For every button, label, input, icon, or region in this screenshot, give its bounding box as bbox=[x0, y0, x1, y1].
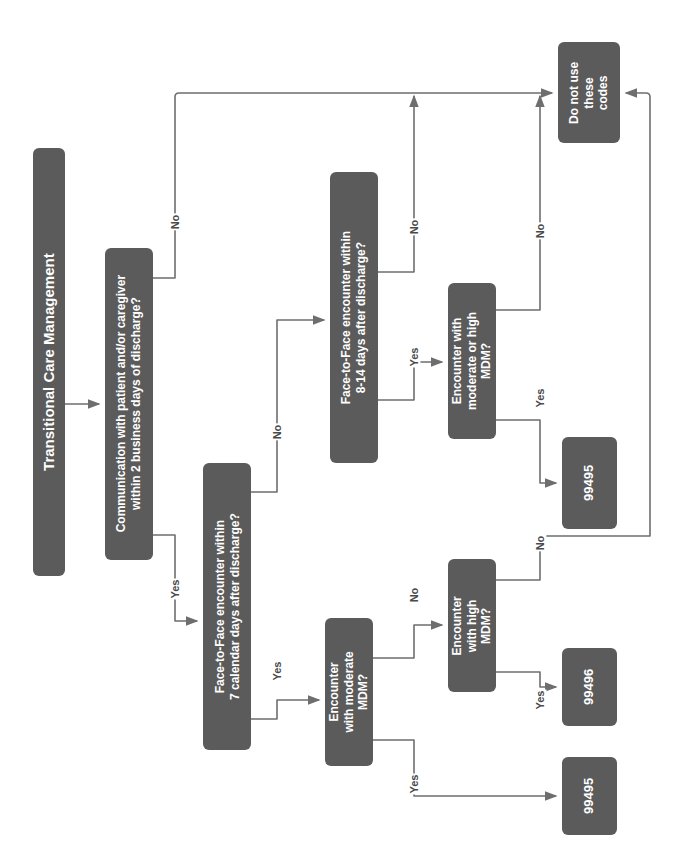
face-to-face-8-14-days-decision[interactable]: Face-to-Face encounter within 8-14 days … bbox=[330, 172, 378, 463]
edge-f2f7-no bbox=[251, 320, 324, 492]
moderate-or-high-mdm-label: Encounter with moderate or high MDM? bbox=[450, 312, 494, 410]
edge-label-moderate-yes: Yes bbox=[408, 774, 420, 795]
edge-label-f2f7-yes: Yes bbox=[271, 661, 283, 682]
edge-moderate-high-yes bbox=[496, 420, 556, 483]
edge-label-communication-no: No bbox=[169, 214, 181, 231]
do-not-use-codes-terminal[interactable]: Do not use these codes bbox=[558, 42, 620, 143]
edge-label-moderate-high-yes: Yes bbox=[534, 388, 546, 409]
edge-label-high-yes: Yes bbox=[534, 690, 546, 711]
communication-decision-label: Communication with patient and/or caregi… bbox=[114, 275, 143, 532]
face-to-face-8-14-days-label: Face-to-Face encounter within 8-14 days … bbox=[339, 231, 368, 404]
edge-f2f814-yes bbox=[378, 362, 442, 400]
edge-f2f814-no bbox=[378, 96, 414, 272]
code-99495-bottom-label: 99495 bbox=[582, 778, 598, 814]
face-to-face-7-days-label: Face-to-Face encounter within 7 calendar… bbox=[212, 513, 241, 700]
edge-moderate-yes bbox=[373, 740, 556, 796]
code-99495-top-terminal[interactable]: 99495 bbox=[562, 437, 617, 529]
code-99495-top-label: 99495 bbox=[582, 465, 598, 501]
edge-f2f7-yes bbox=[251, 700, 319, 719]
edge-moderate-no bbox=[373, 625, 442, 658]
high-mdm-decision[interactable]: Encounter with high MDM? bbox=[448, 559, 496, 692]
edge-label-f2f7-no: No bbox=[271, 424, 283, 441]
communication-decision[interactable]: Communication with patient and/or caregi… bbox=[105, 248, 153, 560]
do-not-use-codes-label: Do not use these codes bbox=[567, 62, 611, 124]
code-99495-bottom-terminal[interactable]: 99495 bbox=[562, 757, 617, 835]
edge-label-f2f814-yes: Yes bbox=[408, 347, 420, 368]
edge-label-high-no: No bbox=[534, 535, 546, 552]
moderate-mdm-decision[interactable]: Encounter with moderate MDM? bbox=[325, 618, 373, 766]
moderate-or-high-mdm-decision[interactable]: Encounter with moderate or high MDM? bbox=[448, 283, 496, 439]
edge-label-moderate-no: No bbox=[408, 587, 420, 604]
moderate-mdm-label: Encounter with moderate MDM? bbox=[327, 651, 371, 732]
edge-moderate-high-no bbox=[496, 96, 540, 310]
face-to-face-7-days-decision[interactable]: Face-to-Face encounter within 7 calendar… bbox=[203, 463, 251, 750]
edge-label-f2f814-no: No bbox=[408, 219, 420, 236]
code-99496-terminal[interactable]: 99496 bbox=[562, 648, 617, 726]
high-mdm-label: Encounter with high MDM? bbox=[450, 596, 494, 655]
code-99496-label: 99496 bbox=[582, 669, 598, 705]
edge-high-yes bbox=[496, 672, 556, 687]
title-node-label: Transitional Care Management bbox=[40, 253, 58, 471]
flowchart-canvas: Transitional Care Management Communicati… bbox=[0, 0, 680, 866]
title-node: Transitional Care Management bbox=[33, 148, 65, 576]
edge-label-moderate-high-no: No bbox=[534, 223, 546, 240]
edge-label-communication-yes: Yes bbox=[169, 579, 181, 600]
